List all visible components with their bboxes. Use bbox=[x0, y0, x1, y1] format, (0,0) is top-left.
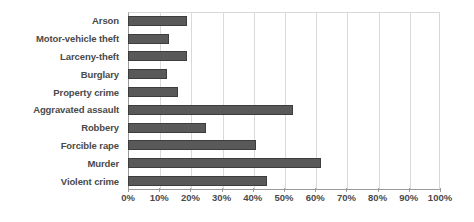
value-axis-labels: 0%10%20%30%40%50%60%70%80%90%100% bbox=[128, 192, 440, 212]
bar bbox=[128, 176, 267, 186]
category-label: Aggravated assault bbox=[0, 101, 124, 119]
value-tick-label: 50% bbox=[274, 192, 293, 203]
category-axis-labels: ArsonMotor-vehicle theftLarceny-theftBur… bbox=[0, 12, 124, 190]
category-label: Arson bbox=[0, 12, 124, 30]
value-tick-label: 30% bbox=[212, 192, 231, 203]
value-tick-label: 0% bbox=[121, 192, 135, 203]
bar-row bbox=[128, 119, 440, 137]
category-label: Motor-vehicle theft bbox=[0, 30, 124, 48]
bar-row bbox=[128, 65, 440, 83]
value-tick-label: 60% bbox=[306, 192, 325, 203]
bar bbox=[128, 87, 178, 97]
bar-row bbox=[128, 30, 440, 48]
bar bbox=[128, 105, 293, 115]
bar-row bbox=[128, 154, 440, 172]
bar bbox=[128, 16, 187, 26]
bar-row bbox=[128, 12, 440, 30]
value-tick-label: 100% bbox=[428, 192, 452, 203]
bar-rows bbox=[128, 12, 440, 190]
bar-row bbox=[128, 83, 440, 101]
value-tick-label: 70% bbox=[337, 192, 356, 203]
category-label: Property crime bbox=[0, 83, 124, 101]
value-tick-label: 10% bbox=[150, 192, 169, 203]
category-label: Burglary bbox=[0, 65, 124, 83]
bar bbox=[128, 123, 206, 133]
bar-row bbox=[128, 137, 440, 155]
value-tick-label: 40% bbox=[243, 192, 262, 203]
category-label: Violent crime bbox=[0, 172, 124, 190]
bar-row bbox=[128, 101, 440, 119]
horizontal-bar-chart: ArsonMotor-vehicle theftLarceny-theftBur… bbox=[0, 0, 474, 222]
value-tick-label: 20% bbox=[181, 192, 200, 203]
category-label: Murder bbox=[0, 154, 124, 172]
bar bbox=[128, 158, 321, 168]
bar-row bbox=[128, 48, 440, 66]
category-label: Larceny-theft bbox=[0, 48, 124, 66]
bar bbox=[128, 140, 256, 150]
category-label: Forcible rape bbox=[0, 137, 124, 155]
bar bbox=[128, 51, 187, 61]
value-tick-label: 90% bbox=[399, 192, 418, 203]
bar bbox=[128, 34, 169, 44]
value-tick-label: 80% bbox=[368, 192, 387, 203]
category-label: Robbery bbox=[0, 119, 124, 137]
bar bbox=[128, 69, 167, 79]
